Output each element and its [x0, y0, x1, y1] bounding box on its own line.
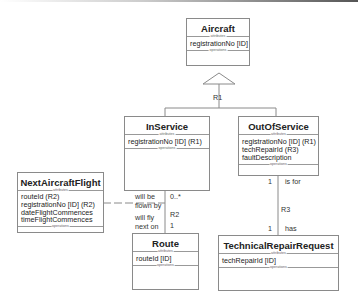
- r2-bottom-multiplicity: 1: [170, 222, 174, 231]
- class-route[interactable]: Route attributes routeId [ID] operations: [132, 233, 199, 290]
- r3-label: R3: [281, 206, 290, 215]
- attributes-divider: attributes: [18, 190, 103, 191]
- class-inservice[interactable]: InService attributes registrationNo [ID]…: [124, 116, 210, 191]
- attribute-list: registrationNo [ID] (R1) techRepairId (R…: [239, 135, 318, 164]
- class-technicalrepairrequest[interactable]: TechnicalRepairRequest attributes techRe…: [218, 235, 339, 291]
- r3-top-phrase: is for: [285, 178, 301, 187]
- attribute: techRepairId [ID]: [222, 257, 336, 265]
- attributes-divider: attributes: [219, 253, 338, 254]
- attribute: faultDescription: [242, 154, 316, 162]
- r3-bottom-multiplicity: 1: [268, 225, 272, 234]
- attributes-divider: attributes: [125, 134, 209, 135]
- attributes-divider: attributes: [187, 36, 249, 37]
- r2-top-multiplicity: 0..*: [170, 193, 181, 202]
- class-aircraft[interactable]: Aircraft attributes registrationNo [ID] …: [186, 18, 250, 66]
- attribute: registrationNo [ID] (R1): [128, 138, 207, 146]
- r1-label: R1: [213, 94, 222, 103]
- class-nextaircraftflight[interactable]: NextAircraftFlight attributes routeId (R…: [17, 172, 104, 233]
- operations-divider: operations: [187, 50, 249, 51]
- attributes-divider: attributes: [133, 251, 198, 252]
- operations-divider: operations: [133, 265, 198, 266]
- operations-divider: operations: [125, 148, 209, 149]
- r3-bottom-phrase: has: [285, 225, 297, 234]
- attribute: registrationNo [ID]: [190, 40, 247, 48]
- r2-bottom-phrase: will fly next on: [135, 214, 159, 231]
- operations-divider: operations: [18, 226, 103, 227]
- attribute: timeFlightCommences: [21, 216, 101, 224]
- attributes-divider: attributes: [239, 134, 318, 135]
- operations-divider: operations: [219, 267, 338, 268]
- r3-top-multiplicity: 1: [268, 178, 272, 187]
- r2-top-phrase: will be flown by: [135, 193, 161, 210]
- attribute-list: routeId (R2) registrationNo [ID] (R2) da…: [18, 191, 103, 226]
- operations-divider: operations: [239, 164, 318, 165]
- class-outofservice[interactable]: OutOfService attributes registrationNo […: [238, 116, 319, 176]
- r2-label: R2: [170, 211, 179, 220]
- attribute: routeId [ID]: [136, 255, 196, 263]
